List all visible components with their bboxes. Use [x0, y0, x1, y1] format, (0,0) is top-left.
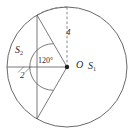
major-segment-subscript: 1 [93, 65, 96, 72]
center-point-label: O [76, 60, 83, 70]
major-segment-label: S1 [88, 61, 96, 72]
minor-segment-subscript: 2 [20, 49, 23, 56]
apothem-length-label: 2 [20, 71, 25, 80]
geometry-canvas [0, 0, 132, 135]
minor-segment-label: S2 [15, 45, 23, 56]
central-angle-label: 120° [38, 57, 53, 65]
radius-lower-line [37, 67, 67, 119]
radius-length-label: 4 [66, 28, 71, 37]
geometry-figure: S1 S2 O 120° 4 2 [0, 0, 132, 135]
dashed-radius-arc [37, 7, 67, 15]
center-point-dot [65, 65, 69, 69]
